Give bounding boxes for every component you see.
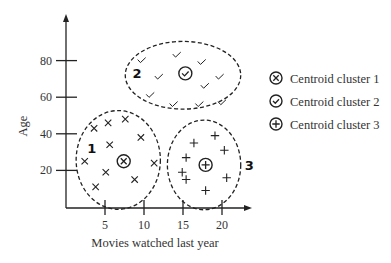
cluster-2-point — [170, 102, 178, 107]
cluster-scatter-chart: 204060805101520 123 Movies watched last … — [0, 0, 391, 263]
legend-circle-x-icon — [270, 72, 282, 84]
legend-label: Centroid cluster 2 — [290, 95, 380, 109]
cluster-3-point — [190, 139, 198, 147]
cluster-1-label: 1 — [87, 141, 96, 156]
cluster-3-point — [211, 131, 219, 139]
legend-circle-plus-icon — [270, 118, 282, 130]
y-tick-label: 80 — [40, 54, 52, 68]
cluster-2-label: 2 — [132, 66, 141, 81]
legend-item: Centroid cluster 3 — [270, 118, 380, 132]
cluster-1-point — [122, 116, 128, 122]
x-axis-label: Movies watched last year — [91, 236, 219, 250]
cluster-2-point — [146, 92, 154, 97]
legend-label: Centroid cluster 1 — [290, 72, 380, 86]
cluster-3-point — [182, 153, 190, 161]
cluster-1-point — [91, 125, 97, 131]
cluster-1-point — [151, 160, 157, 166]
x-tick-label: 20 — [216, 218, 228, 232]
legend-item: Centroid cluster 2 — [270, 95, 380, 109]
cluster-1-point — [103, 169, 109, 175]
cluster-2-point — [173, 52, 181, 57]
cluster-1-point — [138, 134, 144, 140]
y-axis-arrow — [63, 14, 69, 22]
cluster-1-point — [92, 184, 98, 190]
x-tick-label: 10 — [138, 218, 150, 232]
cluster-2-point — [201, 83, 209, 88]
cluster-2-centroid — [179, 67, 192, 80]
legend-item: Centroid cluster 1 — [270, 72, 380, 86]
cluster-1-centroid — [117, 155, 130, 168]
cluster-1-point — [105, 120, 111, 126]
cluster-1-point — [82, 158, 88, 164]
y-tick-label: 40 — [40, 127, 52, 141]
legend-label: Centroid cluster 3 — [290, 118, 380, 132]
cluster-2-point — [198, 59, 206, 64]
cluster-1-point — [106, 142, 112, 148]
cluster-3-point — [178, 168, 186, 176]
cluster-2-point — [138, 58, 146, 63]
y-tick-label: 20 — [40, 163, 52, 177]
x-tick-label: 5 — [102, 218, 108, 232]
axes: 204060805101520 — [40, 14, 252, 232]
x-axis-arrow — [244, 205, 252, 211]
cluster-3-label: 3 — [245, 158, 254, 173]
cluster-2-point — [195, 102, 203, 107]
y-tick-label: 60 — [40, 90, 52, 104]
cluster-3-point — [182, 175, 190, 183]
cluster-3-point — [222, 174, 230, 182]
cluster-3-centroid — [199, 158, 212, 171]
legend-circle-check-icon — [270, 95, 282, 107]
cluster-1-point — [131, 176, 137, 182]
cluster-2-point — [216, 74, 224, 79]
x-tick-label: 15 — [177, 218, 189, 232]
cluster-3-point — [201, 186, 209, 194]
legend: Centroid cluster 1Centroid cluster 2Cent… — [270, 72, 380, 132]
y-axis-label: Age — [16, 115, 30, 136]
cluster-3-point — [220, 146, 228, 154]
cluster-2-point — [155, 74, 163, 79]
cluster-ellipses — [76, 41, 241, 209]
